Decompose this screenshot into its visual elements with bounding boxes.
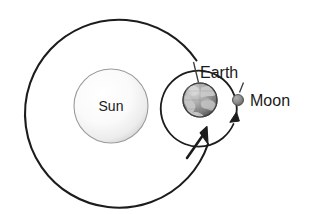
diagram-canvas: Sun xyxy=(0,0,312,214)
solar-system-diagram: Sun xyxy=(0,0,312,214)
moon-label: Moon xyxy=(250,92,290,109)
earth-label-leader xyxy=(194,62,199,83)
moon-label-leader xyxy=(240,83,244,93)
sun-body: Sun xyxy=(74,69,148,143)
earth-label: Earth xyxy=(200,64,238,81)
sun-label: Sun xyxy=(99,98,124,114)
earth-body xyxy=(183,83,217,118)
moon-body xyxy=(233,95,244,106)
moon-circle xyxy=(233,95,244,106)
moon-orbit-direction-arrow xyxy=(230,112,240,122)
